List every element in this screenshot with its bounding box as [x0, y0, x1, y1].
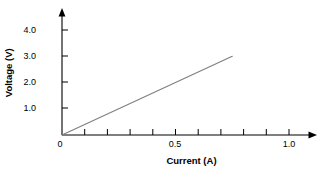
data-series-line — [62, 56, 232, 135]
x-axis-ticks — [85, 129, 289, 135]
y-tick-label-3: 3.0 — [12, 52, 36, 61]
x-axis-arrowhead — [309, 132, 318, 139]
x-axis-title: Current (A) — [0, 156, 327, 166]
chart-figure: 4.0 3.0 2.0 1.0 0 0.5 1.0 Current (A) Vo… — [0, 0, 327, 180]
y-axis-arrowhead — [59, 8, 66, 17]
x-tick-label-0: 0 — [45, 140, 75, 149]
x-tick-label-0-5: 0.5 — [160, 140, 190, 149]
x-tick-label-1-0: 1.0 — [274, 140, 304, 149]
y-tick-label-2: 2.0 — [12, 78, 36, 87]
y-tick-label-1: 1.0 — [12, 104, 36, 113]
y-axis-title: Voltage (V) — [4, 33, 14, 113]
y-tick-label-4: 4.0 — [12, 26, 36, 35]
chart-plot-area — [0, 0, 327, 180]
y-axis-ticks — [62, 30, 68, 108]
